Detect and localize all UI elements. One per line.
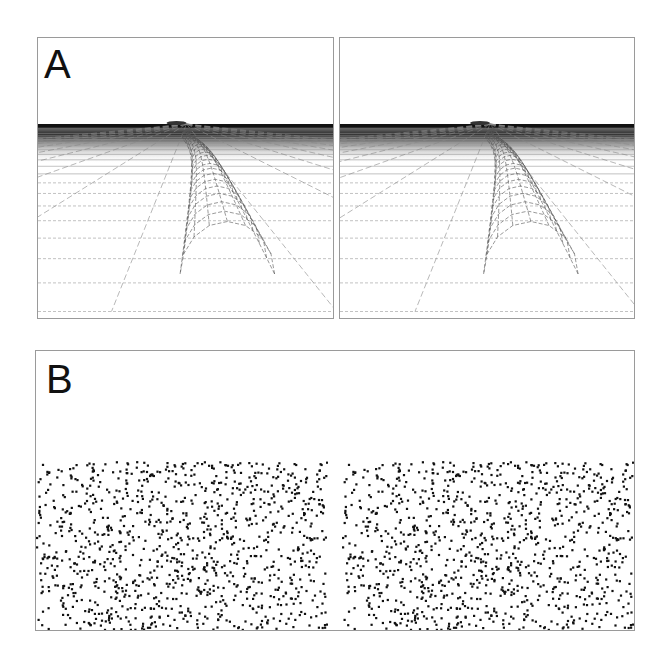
- panel-b-label: B: [46, 359, 73, 399]
- panel-b-random-dot-stereogram: B: [35, 350, 635, 631]
- random-dots-left: [36, 461, 328, 631]
- wireframe-scene-right: [340, 38, 635, 319]
- panel-a-label: A: [44, 44, 71, 84]
- panel-a-right-view: [339, 37, 635, 319]
- panel-a-left-view: A: [37, 37, 334, 319]
- wireframe-scene-left: [38, 38, 334, 319]
- random-dots-right: [342, 461, 634, 631]
